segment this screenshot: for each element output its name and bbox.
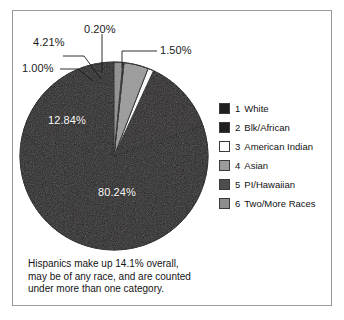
caption-line-2: may be of any race, and are counted [28,271,258,284]
legend-number: 2 [235,122,240,133]
legend-number: 5 [235,179,240,190]
legend-swatch-blk-african [219,122,230,133]
legend-swatch-pi-hawaiian [219,179,230,190]
legend-number: 1 [235,103,240,114]
legend-number: 3 [235,141,240,152]
legend-item-blk-african[interactable]: 2 Blk/African [219,118,331,137]
legend-label: Blk/African [244,122,289,133]
legend-label: Asian [244,160,268,171]
pie-label-blk-african: 12.84% [48,114,86,126]
pie-label-pi-hawaiian: 0.20% [84,23,116,35]
legend-number: 4 [235,160,240,171]
caption-line-1: Hispanics make up 14.1% overall, [28,258,258,271]
legend-swatch-asian [219,160,230,171]
chart-caption: Hispanics make up 14.1% overall, may be … [28,258,258,296]
legend-item-pi-hawaiian[interactable]: 5 PI/Hawaiian [219,175,331,194]
caption-line-3: under more than one category. [28,283,258,296]
legend-number: 6 [235,198,240,209]
legend-label: American Indian [244,141,313,152]
legend-label: PI/Hawaiian [244,179,295,190]
legend-label: White [244,103,268,114]
legend-swatch-two-more-races [219,198,230,209]
chart-page: 80.24% 12.84% 1.00% 4.21% 0.20% 1.50% 1 … [0,0,344,320]
pie-label-asian: 4.21% [33,36,65,48]
legend-item-white[interactable]: 1 White [219,99,331,118]
legend-item-american-indian[interactable]: 3 American Indian [219,137,331,156]
pie-label-american-indian: 1.00% [22,62,54,74]
pie-label-two-more-races: 1.50% [160,44,192,56]
legend-swatch-american-indian [219,141,230,152]
pie-label-white: 80.24% [98,186,136,198]
pie-slices [20,62,208,250]
legend-item-two-more-races[interactable]: 6 Two/More Races [219,194,331,213]
legend-item-asian[interactable]: 4 Asian [219,156,331,175]
legend-swatch-white [219,103,230,114]
legend-label: Two/More Races [244,198,315,209]
legend: 1 White 2 Blk/African 3 American Indian … [219,99,331,213]
